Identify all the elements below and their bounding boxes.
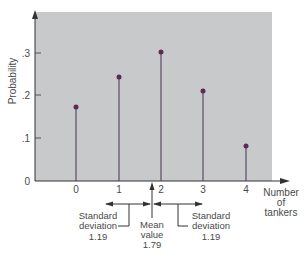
std-left-leader xyxy=(118,204,129,226)
y-tick-label: .2 xyxy=(22,90,31,101)
y-tick-label: .1 xyxy=(22,133,31,144)
std-left-label: deviation xyxy=(79,220,117,231)
data-point-1 xyxy=(117,75,122,80)
std-right-arrowhead-left-icon xyxy=(153,202,161,207)
data-point-2 xyxy=(159,50,164,55)
std-left-arrowhead-right-icon xyxy=(143,202,151,207)
std-right-arrow-icon xyxy=(195,202,203,207)
x-axis-label-line: tankers xyxy=(265,207,298,218)
x-tick-label: 4 xyxy=(243,184,249,195)
plot-area xyxy=(35,12,272,181)
std-right-leader xyxy=(178,204,188,226)
std-left-arrow-icon xyxy=(105,202,113,207)
x-axis-arrow-icon xyxy=(280,178,290,184)
x-tick-label: 3 xyxy=(200,184,206,195)
data-point-4 xyxy=(244,144,249,149)
y-axis-label: Probability xyxy=(7,58,18,105)
probability-stem-chart: .3 .2 .1 0 Probability 0 1 2 3 4 Number … xyxy=(0,0,306,258)
data-point-0 xyxy=(74,105,79,110)
mean-arrow-icon xyxy=(150,182,155,190)
std-left-value: 1.19 xyxy=(89,231,108,242)
x-tick-label: 0 xyxy=(73,184,79,195)
y-tick-label: .3 xyxy=(22,48,31,59)
x-tick-label: 1 xyxy=(116,184,122,195)
std-right-value: 1.19 xyxy=(202,231,221,242)
x-tick-label: 2 xyxy=(158,184,164,195)
mean-value: 1.79 xyxy=(143,239,162,250)
data-point-3 xyxy=(201,89,206,94)
y-tick-label: 0 xyxy=(24,176,30,187)
std-right-label: deviation xyxy=(192,220,230,231)
